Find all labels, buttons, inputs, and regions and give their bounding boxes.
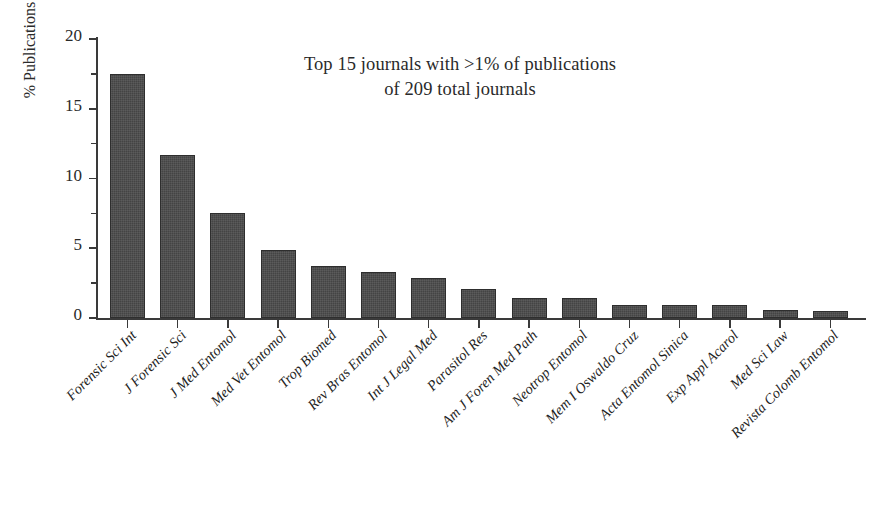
y-axis-minor-tick	[91, 282, 97, 284]
bar	[562, 298, 597, 318]
bar	[361, 272, 396, 318]
y-axis-minor-tick	[91, 73, 97, 75]
bar	[411, 278, 446, 318]
bar	[110, 74, 145, 318]
chart-figure: Top 15 journals with >1% of publications…	[0, 0, 882, 525]
bar	[763, 310, 798, 318]
bar	[662, 305, 697, 318]
y-axis-minor-tick	[91, 143, 97, 145]
y-axis-tick: 10	[89, 178, 98, 180]
y-axis-tick-label: 15	[65, 96, 82, 116]
bar	[311, 266, 346, 318]
y-axis-tick: 0	[89, 317, 98, 319]
y-axis-tick: 20	[89, 38, 98, 40]
y-axis-tick: 15	[89, 108, 98, 110]
y-axis-minor-tick	[91, 213, 97, 215]
bar	[612, 305, 647, 318]
y-axis-tick-label: 0	[74, 305, 83, 325]
y-axis-tick-label: 20	[65, 26, 82, 46]
bar	[210, 213, 245, 318]
y-axis-tick: 5	[89, 247, 98, 249]
x-axis-line	[96, 318, 866, 320]
bar	[461, 289, 496, 318]
plot-area: 05101520	[96, 39, 866, 318]
bar	[512, 298, 547, 318]
y-axis-label: % Publications	[21, 0, 43, 130]
bar	[261, 250, 296, 318]
bar	[160, 155, 195, 318]
y-axis-tick-label: 5	[74, 235, 83, 255]
bar	[712, 305, 747, 318]
bar	[813, 311, 848, 318]
y-axis-tick-label: 10	[65, 166, 82, 186]
